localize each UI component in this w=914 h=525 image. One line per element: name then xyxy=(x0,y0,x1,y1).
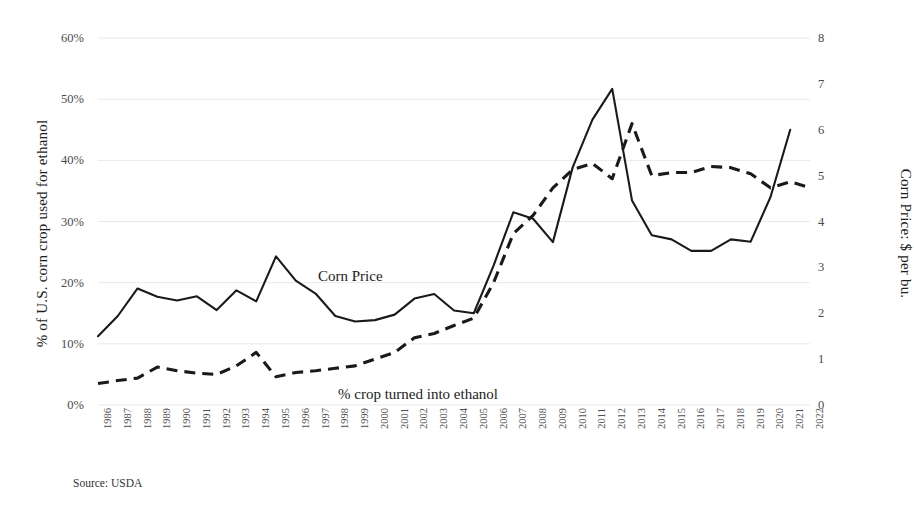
y-axis-left-tick: 20% xyxy=(61,275,84,290)
y-axis-left-tick: 60% xyxy=(61,31,84,46)
y-axis-right-tick: 6 xyxy=(818,122,824,137)
x-axis-tick: 1994 xyxy=(260,408,271,429)
y-axis-right-tick: 4 xyxy=(818,214,824,229)
x-axis-tick: 2010 xyxy=(577,408,588,429)
y-axis-left-tick: 50% xyxy=(61,92,84,107)
x-axis-tick: 1999 xyxy=(359,408,370,429)
x-axis-tick: 2011 xyxy=(596,408,607,429)
line-corn-price xyxy=(98,89,790,336)
x-axis-tick: 2018 xyxy=(735,408,746,429)
y-axis-left: 0%10%20%30%40%50%60% xyxy=(0,0,92,525)
x-axis-tick: 1986 xyxy=(102,408,113,429)
x-axis-tick: 2009 xyxy=(557,408,568,429)
x-axis-tick: 2006 xyxy=(498,408,509,429)
y-axis-left-tick: 30% xyxy=(61,214,84,229)
x-axis-tick: 1991 xyxy=(201,408,212,429)
x-axis-tick: 2000 xyxy=(379,408,390,429)
x-axis-tick: 2021 xyxy=(794,408,805,429)
y-axis-right-tick: 8 xyxy=(818,31,824,46)
annotation-ethanol-share: % crop turned into ethanol xyxy=(338,386,498,403)
y-axis-right-tick: 3 xyxy=(818,260,824,275)
x-axis-tick: 2005 xyxy=(478,408,489,429)
x-axis-tick: 2016 xyxy=(695,408,706,429)
y-axis-right: 012345678 xyxy=(812,0,852,525)
annotation-corn-price: Corn Price xyxy=(318,268,383,285)
x-axis-tick: 1998 xyxy=(339,408,350,429)
y-axis-right-tick: 1 xyxy=(818,352,824,367)
x-axis-tick: 2001 xyxy=(399,408,410,429)
y-axis-right-tick: 7 xyxy=(818,76,824,91)
x-axis-tick: 2002 xyxy=(418,408,429,429)
x-axis-tick: 1993 xyxy=(240,408,251,429)
line-ethanol-share xyxy=(98,124,810,384)
source-note: Source: USDA xyxy=(73,477,142,489)
y-axis-left-tick: 10% xyxy=(61,336,84,351)
x-axis-tick: 2015 xyxy=(676,408,687,429)
y-axis-left-tick: 0% xyxy=(67,398,84,413)
x-axis-tick: 1990 xyxy=(181,408,192,429)
x-axis-tick: 1992 xyxy=(221,408,232,429)
x-axis-tick: 2008 xyxy=(537,408,548,429)
y-axis-left-tick: 40% xyxy=(61,153,84,168)
x-axis-tick: 1996 xyxy=(300,408,311,429)
x-axis-tick: 1995 xyxy=(280,408,291,429)
y-axis-right-tick: 5 xyxy=(818,168,824,183)
x-axis-tick: 2019 xyxy=(755,408,766,429)
plot-svg xyxy=(98,38,810,405)
x-axis-tick: 2017 xyxy=(715,408,726,429)
x-axis: 1986198719881989199019911992199319941995… xyxy=(98,408,810,464)
x-axis-tick: 2013 xyxy=(636,408,647,429)
x-axis-tick: 2007 xyxy=(517,408,528,429)
x-axis-tick: 2022 xyxy=(814,408,825,429)
plot-area xyxy=(98,38,810,405)
gridlines xyxy=(98,38,810,405)
y-axis-right-title: Corn Price: $ per bu. xyxy=(897,74,914,394)
x-axis-tick: 1989 xyxy=(161,408,172,429)
x-axis-tick: 1997 xyxy=(320,408,331,429)
x-axis-tick: 2003 xyxy=(438,408,449,429)
x-axis-tick: 1987 xyxy=(122,408,133,429)
x-axis-tick: 1988 xyxy=(142,408,153,429)
y-axis-right-tick: 2 xyxy=(818,306,824,321)
x-axis-tick: 2014 xyxy=(656,408,667,429)
x-axis-tick: 2020 xyxy=(774,408,785,429)
x-axis-tick: 2012 xyxy=(616,408,627,429)
x-axis-tick: 2004 xyxy=(458,408,469,429)
